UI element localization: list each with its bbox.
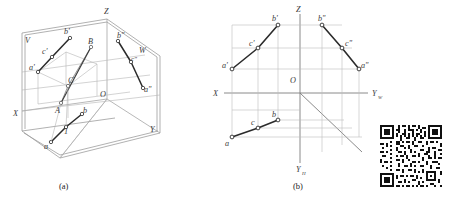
- qr-code-image: [378, 123, 444, 189]
- label-origin-b: O: [290, 76, 296, 85]
- front-view-b: [232, 25, 278, 69]
- label-b-lower-b: b: [272, 110, 276, 119]
- label-a-double-prime-b: a": [361, 61, 369, 70]
- label-axis-z-b: Z: [296, 5, 301, 14]
- label-b-prime-b: b': [272, 14, 278, 23]
- axes-b: [224, 14, 368, 163]
- figure-root: V W Z X Y O a' c' b' A C B b" c" a" a b …: [0, 0, 457, 203]
- qr-code[interactable]: [378, 123, 444, 189]
- label-b-double-prime-b: b": [318, 14, 326, 23]
- label-c-lower-b: c: [251, 118, 255, 127]
- label-a-prime-b: a': [222, 61, 228, 70]
- label-axis-yh-b: Y H: [296, 165, 306, 176]
- label-axis-x-b: X: [212, 89, 219, 98]
- svg-text:H: H: [301, 171, 306, 176]
- label-axis-yw-b: Y W: [372, 89, 383, 100]
- svg-text:W: W: [378, 95, 383, 100]
- caption-b: (b): [293, 181, 303, 191]
- labels-b: Z X Y W Y H O a' c' b' b" c" a" a c b (b…: [212, 5, 383, 191]
- top-view-b: [232, 120, 278, 137]
- label-c-prime-b: c': [249, 39, 255, 48]
- label-a-lower-b: a: [225, 139, 229, 148]
- label-c-double-prime-b: c": [345, 39, 353, 48]
